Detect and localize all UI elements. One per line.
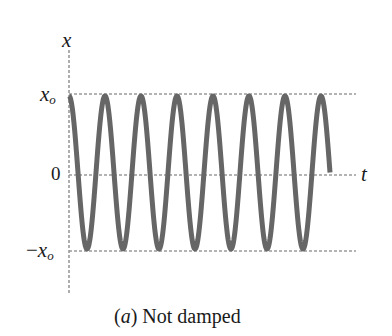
oscillation-curve [69,96,330,249]
y-axis-label: x [62,28,71,53]
tick-sub: o [49,92,56,107]
tick-main: x [38,238,47,262]
caption-paren-close: ) [131,305,138,327]
x-axis-label: t [361,162,367,187]
caption-text: Not damped [142,305,240,327]
caption-paren-open: ( [114,305,121,327]
tick-sign: − [26,238,38,262]
tick-main: x [40,82,49,106]
caption-letter: a [121,305,131,327]
y-tick-negative-amplitude: −xo [26,238,54,264]
y-tick-positive-amplitude: xo [40,82,56,108]
tick-sub: o [47,248,54,263]
figure-caption: (a) Not damped [114,305,241,328]
y-tick-zero: 0 [51,163,61,185]
